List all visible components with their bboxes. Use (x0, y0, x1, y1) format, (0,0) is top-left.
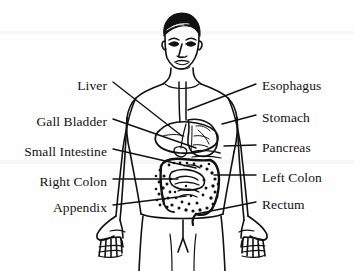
label-right-colon: Right Colon (40, 175, 108, 189)
leader-line-appendix (113, 196, 186, 205)
neck-and-shoulders (127, 68, 237, 118)
label-rectum: Rectum (262, 198, 305, 212)
torso-outline (127, 118, 238, 219)
right-hand (239, 216, 267, 257)
label-small-intestine: Small Intestine (24, 145, 107, 159)
label-left-colon: Left Colon (262, 171, 322, 185)
anatomy-illustration (0, 0, 354, 271)
label-pancreas: Pancreas (262, 141, 311, 155)
leader-line-esophagus (188, 84, 256, 110)
leader-line-stomach (222, 115, 256, 124)
label-appendix: Appendix (53, 201, 107, 215)
label-esophagus: Esophagus (262, 79, 321, 93)
left-hand (97, 216, 125, 257)
legs-outline (139, 216, 225, 271)
leader-line-pancreas (224, 145, 256, 146)
face-features (169, 39, 196, 70)
figure-canvas: Liver Gall Bladder Small Intestine Right… (0, 0, 354, 271)
rectum-tube (193, 214, 196, 225)
label-liver: Liver (77, 79, 107, 93)
label-stomach: Stomach (262, 111, 310, 125)
label-gall-bladder: Gall Bladder (36, 115, 107, 129)
